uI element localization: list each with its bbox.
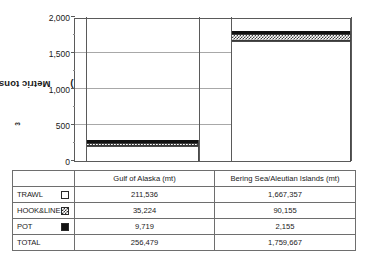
table-header-row: Gulf of Alaska (mt)Bering Sea/Aleutian I… (13, 171, 356, 187)
cell-bering-sea-aleutian-islands: 1,667,357 (215, 187, 356, 203)
row-label-cell: TOTAL (13, 235, 75, 251)
y-axis-tick-labels: 05001,0001,5002,000 (30, 14, 70, 162)
y-axis-label: Metric tons (mt 103) (14, 24, 28, 144)
bar-segment-pot (86, 140, 199, 143)
cell-bering-sea-aleutian-islands: 2,155 (215, 219, 356, 235)
y-tick-label: 1,500 (49, 49, 70, 59)
header-cell-blank (13, 171, 75, 187)
swatch-checkered-square-icon (61, 207, 69, 215)
bar-segment-pot (231, 31, 351, 34)
cell-gulf-of-alaska: 35,224 (75, 203, 215, 219)
row-label: TOTAL (17, 238, 40, 247)
cell-bering-sea-aleutian-islands: 90,155 (215, 203, 356, 219)
row-label-cell: TRAWL (13, 187, 75, 203)
row-label: HOOK&LINE (17, 206, 60, 215)
y-minor-tick (73, 34, 76, 35)
table-row: TRAWL211,5361,667,357 (13, 187, 356, 203)
table-row: TOTAL256,4791,759,667 (13, 235, 356, 251)
y-major-tick (71, 88, 75, 89)
y-tick-label: 500 (56, 121, 70, 131)
table-row: POT9,7192,155 (13, 219, 356, 235)
y-minor-tick (73, 70, 76, 71)
category-separator (86, 17, 87, 161)
chart-container: Metric tons (mt 103) 05001,0001,5002,000 (0, 0, 371, 170)
row-label: TRAWL (17, 190, 43, 199)
y-tick-label: 0 (65, 157, 70, 167)
row-label: POT (17, 222, 32, 231)
y-major-tick (71, 16, 75, 17)
bar-segment-trawl (231, 41, 351, 161)
legend-data-table: Gulf of Alaska (mt)Bering Sea/Aleutian I… (12, 170, 356, 251)
swatch-open-square-icon (61, 191, 69, 199)
y-major-tick (71, 160, 75, 161)
table-body: Gulf of Alaska (mt)Bering Sea/Aleutian I… (13, 171, 356, 251)
y-major-tick (71, 52, 75, 53)
y-minor-tick (73, 106, 76, 107)
y-tick-label: 1,000 (49, 85, 70, 95)
y-minor-tick (73, 142, 76, 143)
cell-gulf-of-alaska: 211,536 (75, 187, 215, 203)
bar-bering-sea-aleutian-islands (231, 34, 351, 161)
y-tick-label: 2,000 (49, 13, 70, 23)
swatch-solid-square-icon (61, 223, 69, 231)
y-major-tick (71, 124, 75, 125)
cell-gulf-of-alaska: 9,719 (75, 219, 215, 235)
y-axis-label-exponent: 3 (15, 122, 22, 126)
row-label-cell: POT (13, 219, 75, 235)
header-cell-region: Gulf of Alaska (mt) (75, 171, 215, 187)
cell-gulf-of-alaska: 256,479 (75, 235, 215, 251)
header-cell-region: Bering Sea/Aleutian Islands (mt) (215, 171, 356, 187)
bar-gulf-of-alaska (86, 143, 199, 161)
plot-area (74, 18, 351, 162)
bar-segment-hook-line (231, 34, 351, 40)
category-separator (231, 17, 232, 161)
bar-segment-trawl (86, 146, 199, 161)
row-label-cell: HOOK&LINE (13, 203, 75, 219)
category-separator (351, 17, 352, 161)
table-row: HOOK&LINE35,22490,155 (13, 203, 356, 219)
category-separator (199, 17, 200, 161)
cell-bering-sea-aleutian-islands: 1,759,667 (215, 235, 356, 251)
